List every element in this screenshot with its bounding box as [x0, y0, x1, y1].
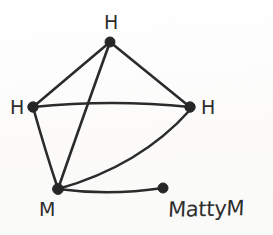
edge-left-h-to-m	[33, 107, 58, 189]
edge-left-h-to-right-h	[33, 103, 190, 107]
edge-m-to-right-h	[58, 110, 190, 189]
node-label-right-h: H	[201, 98, 216, 117]
node-m[interactable]	[53, 184, 64, 195]
drawing-canvas: H H H M MattyM	[0, 0, 273, 235]
edge-layer	[33, 42, 190, 192]
node-label-m: M	[39, 200, 56, 219]
node-left-h[interactable]	[28, 102, 38, 112]
node-label-top-h: H	[104, 13, 119, 32]
node-label-left-h: H	[10, 98, 25, 117]
node-signature[interactable]	[158, 183, 168, 193]
edge-m-to-signature-node	[58, 188, 163, 192]
edge-top-h-to-right-h	[110, 42, 190, 107]
node-right-h[interactable]	[185, 102, 195, 112]
node-top-h[interactable]	[105, 37, 115, 47]
signature-text: MattyM	[167, 198, 244, 221]
